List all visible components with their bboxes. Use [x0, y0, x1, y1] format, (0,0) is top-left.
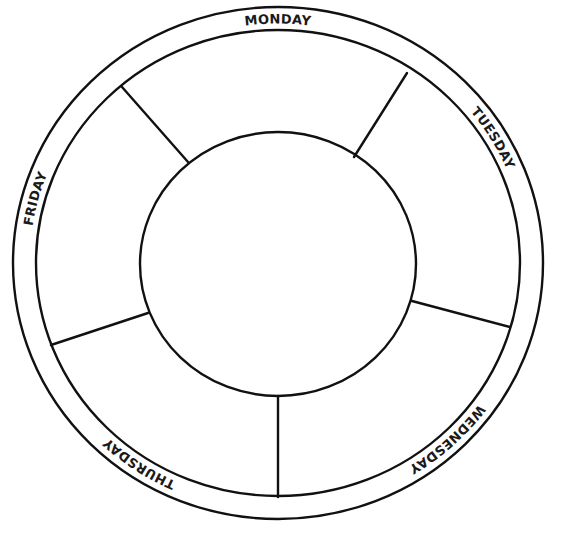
day-label-monday: MONDAY	[244, 11, 312, 28]
weekly-wheel-diagram: MONDAY TUESDAY WEDNESDAY THURSDAY FRIDAY	[0, 0, 562, 534]
center-circle[interactable]	[140, 132, 416, 396]
